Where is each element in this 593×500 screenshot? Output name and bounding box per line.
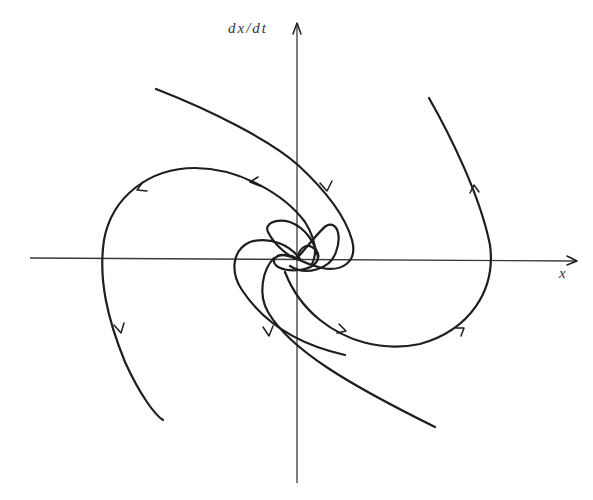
- trajectory-lower-long: [262, 258, 435, 427]
- arrow-lower-long: [263, 326, 273, 336]
- trajectory-inner-up-left: [267, 221, 318, 260]
- trajectory-upper-left-loop: [102, 168, 315, 420]
- arrow-lower-right-1: [456, 328, 464, 336]
- axes: [30, 23, 577, 483]
- trajectory-right-arc: [285, 98, 491, 347]
- x-axis-label: x: [559, 265, 568, 282]
- arrow-lower-left: [114, 323, 124, 333]
- y-axis-label: dx/dt: [228, 20, 268, 37]
- phase-portrait: [0, 0, 593, 500]
